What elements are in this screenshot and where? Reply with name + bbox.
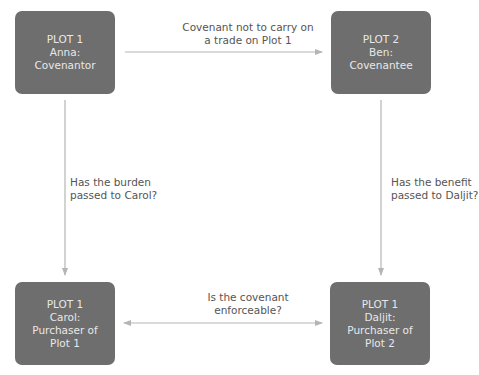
- node-plot: PLOT 1: [47, 298, 84, 311]
- node-party: Anna:: [50, 46, 80, 59]
- node-role: Covenantor: [34, 59, 95, 72]
- edge-label-enforceable: Is the covenant enforceable?: [148, 291, 348, 317]
- node-role-plot: Plot 2: [365, 337, 395, 350]
- node-party: Carol:: [50, 311, 81, 324]
- node-plot: PLOT 2: [363, 33, 400, 46]
- node-plot: PLOT 1: [362, 298, 399, 311]
- node-role-plot: Plot 1: [50, 337, 80, 350]
- node-plot: PLOT 1: [47, 33, 84, 46]
- edge-label-covenant: Covenant not to carry on a trade on Plot…: [148, 21, 348, 47]
- node-role: Covenantee: [349, 59, 412, 72]
- node-party: Daljit:: [365, 311, 396, 324]
- node-carol-purchaser: PLOT 1 Carol: Purchaser of Plot 1: [15, 282, 115, 365]
- edge-label-benefit: Has the benefit passed to Daljit?: [391, 176, 479, 202]
- node-role: Purchaser of: [32, 324, 97, 337]
- node-anna-covenantor: PLOT 1 Anna: Covenantor: [15, 11, 115, 94]
- node-role: Purchaser of: [347, 324, 412, 337]
- edge-label-burden: Has the burden passed to Carol?: [70, 176, 210, 202]
- node-party: Ben:: [369, 46, 393, 59]
